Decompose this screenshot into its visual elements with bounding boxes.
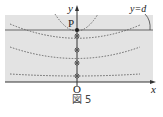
figure-5: y P y=d O x 図 5 xyxy=(0,0,163,117)
crossed-circle-icon xyxy=(75,34,79,38)
y-axis-label: y xyxy=(68,3,73,14)
boundary-line-label: y=d xyxy=(130,4,146,14)
point-p-label: P xyxy=(68,18,74,29)
point-p xyxy=(75,28,79,32)
y-axis-arrow-icon xyxy=(75,5,79,11)
crossed-circle-icon xyxy=(75,74,79,78)
shaded-region xyxy=(5,15,153,82)
crossed-circle-icon xyxy=(75,61,79,65)
crossed-circle-icon xyxy=(75,48,79,52)
figure-caption: 図 5 xyxy=(0,91,163,106)
